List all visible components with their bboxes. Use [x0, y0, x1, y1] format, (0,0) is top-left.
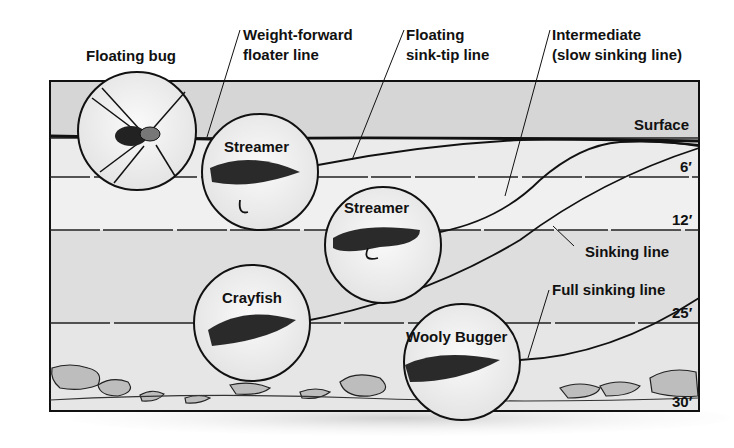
label-floating-sink-tip-2: sink-tip line: [406, 45, 489, 64]
label-wooly-bugger: Wooly Bugger: [406, 327, 507, 346]
label-intermediate-2: (slow sinking line): [552, 45, 682, 64]
label-streamer-2: Streamer: [344, 198, 409, 217]
fly-circle-crayfish: [194, 265, 310, 381]
fly-circle-wooly-bugger: [404, 304, 520, 420]
depth-label-12: 12′: [672, 211, 692, 228]
label-sinking-line: Sinking line: [585, 242, 669, 261]
label-floating-bug: Floating bug: [86, 46, 176, 65]
depth-label-30: 30′: [672, 393, 692, 410]
fly-circle-floating-bug: [78, 72, 196, 190]
label-weight-forward-2: floater line: [243, 45, 319, 64]
diagram-canvas: [0, 0, 734, 448]
label-full-sinking-line: Full sinking line: [552, 280, 665, 299]
label-streamer-1: Streamer: [224, 137, 289, 156]
depth-label-25: 25′: [672, 304, 692, 321]
label-weight-forward-1: Weight-forward: [243, 25, 353, 44]
depth-label-6: 6′: [680, 158, 692, 175]
label-crayfish: Crayfish: [222, 288, 282, 307]
depth-label-surface: Surface: [634, 116, 689, 133]
fly-circle-streamer-1: [202, 114, 318, 230]
label-intermediate-1: Intermediate: [552, 25, 641, 44]
label-floating-sink-tip-1: Floating: [406, 25, 464, 44]
